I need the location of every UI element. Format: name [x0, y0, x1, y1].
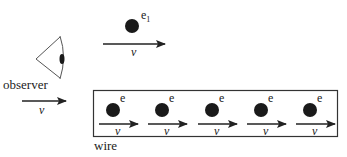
wire-label: wire — [94, 138, 117, 154]
wire-electron-label: e — [120, 91, 125, 106]
free-electron-label: e1 — [141, 8, 150, 24]
free-electron-velocity-label: v — [131, 45, 136, 60]
wire-electrons — [99, 103, 335, 124]
wire-electron-velocity-label: v — [214, 124, 219, 139]
wire-electron-velocity-label: v — [263, 124, 268, 139]
wire-electron-velocity-label: v — [312, 124, 317, 139]
diagram-canvas — [0, 0, 347, 157]
observer-label: observer — [3, 77, 48, 93]
observer-velocity-label: v — [39, 103, 44, 118]
free-electron — [125, 19, 139, 33]
wire-electron-label: e — [169, 91, 174, 106]
eye-icon — [36, 36, 65, 79]
wire-electron-velocity-label: v — [164, 124, 169, 139]
wire-electron-label: e — [268, 91, 273, 106]
wire-electron-label: e — [219, 91, 224, 106]
wire-electron-label: e — [317, 91, 322, 106]
wire-electron-velocity-label: v — [115, 124, 120, 139]
